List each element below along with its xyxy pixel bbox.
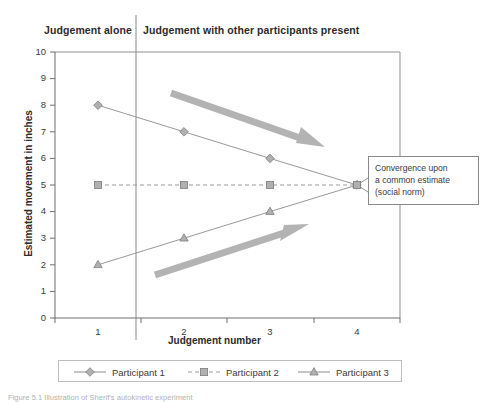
- judgement-alone-header: Judgement alone: [44, 24, 132, 36]
- callout-line-1: Convergence upon: [375, 162, 474, 174]
- y-tick-label: 6: [26, 152, 46, 163]
- x-tick-label: 1: [88, 326, 108, 337]
- y-tick-label: 2: [26, 259, 46, 270]
- y-tick-label: 10: [26, 46, 46, 57]
- y-tick-label: 4: [26, 205, 46, 216]
- y-tick-label: 0: [26, 312, 46, 323]
- arrow-upward-icon: [155, 224, 309, 275]
- legend-key-diamond-icon: [73, 366, 107, 378]
- x-tick-label: 2: [174, 326, 194, 337]
- judgement-with-others-header: Judgement with other participants presen…: [143, 24, 359, 36]
- y-axis-ticks: [50, 52, 55, 318]
- y-tick-label: 3: [26, 232, 46, 243]
- arrow-downward-icon: [171, 93, 325, 147]
- y-tick-label: 8: [26, 99, 46, 110]
- y-tick-label: 7: [26, 126, 46, 137]
- callout-line-3: (social norm): [375, 186, 474, 198]
- y-tick-label: 9: [26, 72, 46, 83]
- y-tick-label: 1: [26, 285, 46, 296]
- series-participant-2: [94, 181, 360, 188]
- y-tick-label: 5: [26, 179, 46, 190]
- chart-legend: Participant 1 Participant 2 Participant …: [58, 360, 402, 382]
- legend-label: Participant 1: [112, 367, 165, 378]
- legend-key-square-icon: [187, 366, 221, 378]
- x-tick-label: 3: [260, 326, 280, 337]
- legend-key-triangle-icon: [297, 366, 331, 378]
- legend-item-participant-3: Participant 3: [297, 361, 389, 383]
- convergence-callout: Convergence upon a common estimate (soci…: [368, 156, 479, 205]
- legend-label: Participant 2: [226, 367, 279, 378]
- legend-item-participant-1: Participant 1: [73, 361, 165, 383]
- figure-caption: Figure 5.1 Illustration of Sherif's auto…: [8, 393, 193, 402]
- legend-label: Participant 3: [336, 367, 389, 378]
- callout-line-2: a common estimate: [375, 174, 474, 186]
- x-axis-ticks: [55, 318, 400, 323]
- x-tick-label: 4: [347, 326, 367, 337]
- legend-item-participant-2: Participant 2: [187, 361, 279, 383]
